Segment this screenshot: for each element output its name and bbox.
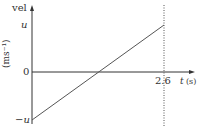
y-tick-neg-u: −u [15, 115, 30, 125]
y-tick-zero: 0 [23, 67, 29, 77]
x-label-unit: (s) [186, 77, 196, 87]
x-tick-2-6: 2.6 [155, 76, 171, 86]
y-tick-u: u [21, 20, 27, 30]
x-label-t: t [180, 76, 184, 86]
y-label-unit: (ms⁻¹) [1, 39, 11, 68]
y-label-vel: vel [12, 3, 27, 13]
y-axis-arrow-icon [30, 5, 34, 11]
x-axis-arrow-icon [189, 70, 195, 74]
chart-plot [0, 0, 200, 126]
